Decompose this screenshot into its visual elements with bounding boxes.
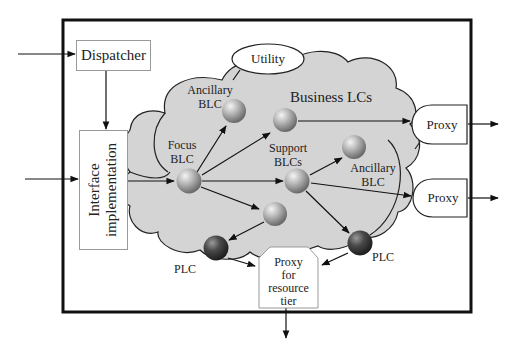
ancillary-blc-top-label: Ancillary BLC: [180, 83, 240, 111]
focus-blc-sphere: [177, 169, 202, 194]
dispatcher-box: Dispatcher: [76, 40, 151, 71]
proxy-top-label: Proxy: [422, 118, 462, 132]
plc-right-label: PLC: [368, 250, 398, 264]
focus-blc-label: Focus BLC: [160, 138, 204, 166]
utility-label: Utility: [248, 52, 288, 66]
ancillary-blc-right-label: Ancillary BLC: [343, 161, 403, 189]
support-blc-mid-sphere: [285, 169, 310, 194]
interface-label-line2: implementation: [104, 143, 121, 237]
plc-left-sphere: [204, 236, 229, 261]
plc-left-label: PLC: [170, 262, 200, 276]
proxy-resource-label: Proxy for resource tier: [259, 256, 318, 308]
support-blc-top-sphere: [273, 108, 297, 132]
ancillary-blc-right-sphere: [342, 135, 366, 159]
business-lcs-label: Business LCs: [286, 89, 376, 105]
dispatcher-label: Dispatcher: [81, 47, 146, 64]
interface-label-line1: Interface: [87, 143, 104, 237]
support-blcs-label: Support BLCs: [258, 141, 318, 169]
proxy-mid-label: Proxy: [423, 191, 463, 205]
interface-implementation-box: Interface implementation: [79, 130, 128, 250]
blc-lower-sphere: [263, 202, 287, 226]
